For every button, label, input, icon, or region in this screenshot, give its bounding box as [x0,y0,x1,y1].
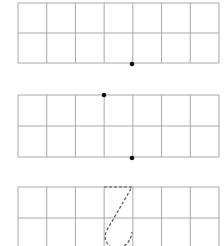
diagram-canvas [0,0,224,246]
point-dot [130,62,135,67]
point-dot [130,156,135,161]
dashed-path-shape [104,187,132,246]
point-dot [102,93,107,98]
